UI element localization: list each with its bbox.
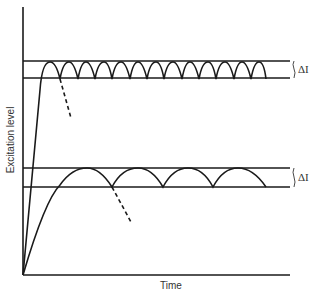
x-axis-label: Time	[160, 280, 182, 291]
diagram-canvas	[0, 0, 318, 294]
lower-delta-i-label: ΔI	[298, 171, 309, 183]
upper-decay-dashed-line	[60, 79, 71, 118]
y-axis-label: Excitation level	[5, 107, 16, 174]
lower-curve	[23, 168, 266, 275]
excitation-diagram: Excitation level Time ΔI ΔI	[0, 0, 318, 294]
lower-delta-bracket	[293, 168, 295, 187]
upper-delta-i-label: ΔI	[298, 63, 309, 75]
lower-decay-dashed-line	[112, 187, 131, 222]
upper-delta-bracket	[293, 61, 295, 78]
